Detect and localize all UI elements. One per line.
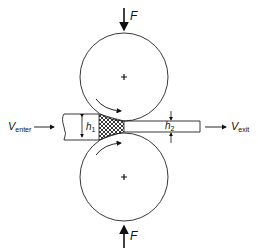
force-top-label: F — [130, 10, 137, 22]
h2-sub: 2 — [171, 125, 175, 132]
v-enter-label: Venter — [8, 121, 31, 133]
v-exit-sub: exit — [238, 126, 249, 133]
v-exit-label: Vexit — [231, 121, 249, 133]
deformation-zone — [99, 114, 124, 140]
top-roll-rotation-arrow — [96, 99, 121, 111]
rolling-diagram: F F Venter Vexit h1 h2 — [0, 0, 258, 252]
diagram-graphics — [0, 0, 258, 252]
h1-sub: 1 — [92, 126, 96, 133]
top-roll-center-icon — [121, 74, 127, 80]
bottom-roll-center-icon — [121, 174, 127, 180]
outgoing-strip — [124, 121, 200, 132]
h2-label: h2 — [165, 121, 174, 132]
bottom-roll-rotation-arrow — [96, 143, 121, 155]
force-bottom-label: F — [130, 230, 137, 242]
h1-label: h1 — [86, 122, 95, 133]
v-enter-sub: enter — [15, 126, 31, 133]
